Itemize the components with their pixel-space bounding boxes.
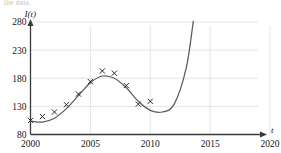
x-tick-label: 2020 bbox=[261, 139, 280, 149]
axis-name-labels: I(t)t bbox=[24, 9, 275, 135]
y-tick-label: 230 bbox=[12, 46, 27, 56]
chart-figure: the data. 80130180230280 200020052010201… bbox=[0, 0, 281, 153]
x-tick-label: 2000 bbox=[21, 139, 40, 149]
data-point-marker bbox=[136, 102, 141, 107]
x-tick-label: 2010 bbox=[141, 139, 160, 149]
data-point-marker bbox=[112, 71, 117, 76]
curve-path bbox=[31, 21, 194, 122]
x-axis-tick-labels: 20002005201020152020 bbox=[21, 139, 280, 149]
y-tick-label: 180 bbox=[12, 74, 27, 84]
data-point-marker bbox=[40, 114, 45, 119]
fitted-curve bbox=[31, 21, 194, 122]
chart-canvas: 80130180230280 20002005201020152020 I(t)… bbox=[0, 0, 281, 153]
y-tick-label: 130 bbox=[12, 102, 27, 112]
gridlines bbox=[31, 22, 271, 135]
y-axis-name-label: I(t) bbox=[24, 9, 37, 19]
x-axis-name-label: t bbox=[271, 125, 274, 135]
y-axis-tick-labels: 80130180230280 bbox=[12, 17, 27, 139]
data-point-marker bbox=[52, 109, 57, 114]
x-tick-label: 2015 bbox=[201, 139, 220, 149]
x-axis-arrow bbox=[260, 131, 267, 137]
x-tick-label: 2005 bbox=[81, 139, 100, 149]
y-axis-arrow bbox=[27, 19, 33, 26]
data-point-marker bbox=[100, 68, 105, 73]
